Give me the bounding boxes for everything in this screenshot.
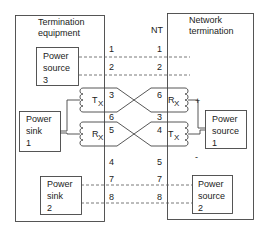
left-pin-5: 5 <box>109 125 114 135</box>
ps2-l1: Power <box>198 179 224 189</box>
ps1-l1: Power <box>212 114 238 124</box>
right-pin-2: 2 <box>157 62 162 72</box>
right-pin-8: 8 <box>157 192 162 202</box>
left-title-2: equipment <box>38 28 81 38</box>
left-bottom-coil-sub: X <box>98 133 104 142</box>
ps1-l2: source <box>212 126 239 136</box>
left-pin-4: 4 <box>109 157 114 167</box>
psk2-l2: sink <box>47 191 64 201</box>
power-over-ethernet-diagram: Termination equipment Network terminatio… <box>0 0 267 234</box>
right-bottom-coil-sub: X <box>174 133 180 142</box>
psk2-l3: 2 <box>47 203 52 213</box>
psk1-l2: sink <box>26 126 43 136</box>
left-pin-1: 1 <box>109 44 114 54</box>
right-title-1: Network <box>189 15 223 25</box>
right-top-coil-sub: X <box>174 99 180 108</box>
right-rx-coil-icon <box>178 88 188 112</box>
left-pin-2: 2 <box>109 62 114 72</box>
right-tx-coil-icon <box>178 122 188 146</box>
left-title-1: Termination <box>38 17 85 27</box>
left-tx-coil-icon <box>80 88 90 112</box>
left-pin-3: 3 <box>109 90 114 100</box>
left-rx-center-tap <box>60 133 80 134</box>
psk1-l1: Power <box>26 114 52 124</box>
left-pin-8: 8 <box>109 192 114 202</box>
left-top-coil-sub: X <box>98 99 104 108</box>
nt-label: NT <box>151 25 163 35</box>
right-title-2: termination <box>189 26 234 36</box>
ps3-l1: Power <box>43 51 69 61</box>
right-tx-center-tap <box>188 130 205 134</box>
right-pin-1: 1 <box>157 44 162 54</box>
right-pin-5: 5 <box>157 157 162 167</box>
right-pin-3: 3 <box>157 112 162 122</box>
right-pin-4: 4 <box>157 125 162 135</box>
ps1-l3: 1 <box>212 138 217 148</box>
ps2-l2: source <box>198 191 225 201</box>
left-rx-coil-icon <box>80 122 90 146</box>
ps3-l2: source <box>43 63 70 73</box>
right-pin-6: 6 <box>157 90 162 100</box>
psk1-l3: 1 <box>26 138 31 148</box>
left-pin-6: 6 <box>109 112 114 122</box>
psk2-l1: Power <box>47 179 73 189</box>
ps2-l3: 2 <box>198 203 203 213</box>
left-tx-center-tap <box>60 100 80 131</box>
minus-sign: - <box>195 152 198 162</box>
left-pin-7: 7 <box>109 174 114 184</box>
ps3-l3: 3 <box>43 75 48 85</box>
right-pin-7: 7 <box>157 174 162 184</box>
plus-sign: + <box>195 96 200 106</box>
